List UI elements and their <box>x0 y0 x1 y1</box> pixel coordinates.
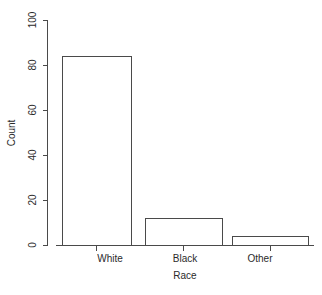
y-axis-tick-label-60: 60 <box>27 104 38 116</box>
x-axis-title: Race <box>173 270 197 281</box>
bar-white <box>63 57 132 246</box>
x-axis-tick-label-other: Other <box>247 253 273 264</box>
y-axis-tick-label-40: 40 <box>27 149 38 161</box>
bar-series-count <box>63 57 309 246</box>
bar-other <box>233 237 309 246</box>
y-axis-tick-label-80: 80 <box>27 59 38 71</box>
x-axis: White Black Other Race <box>56 246 314 282</box>
y-axis: 100 80 60 40 20 0 Count <box>6 11 48 248</box>
bar-chart-figure: 100 80 60 40 20 0 Count White Black Othe… <box>0 0 322 295</box>
x-axis-tick-label-black: Black <box>173 253 198 264</box>
y-axis-tick-label-100: 100 <box>27 11 38 28</box>
y-axis-tick-label-20: 20 <box>27 194 38 206</box>
bar-black <box>146 219 223 246</box>
y-axis-title: Count <box>6 119 17 146</box>
y-axis-tick-label-0: 0 <box>27 242 38 248</box>
chart-canvas: 100 80 60 40 20 0 Count White Black Othe… <box>0 0 322 295</box>
x-axis-tick-label-white: White <box>97 253 123 264</box>
